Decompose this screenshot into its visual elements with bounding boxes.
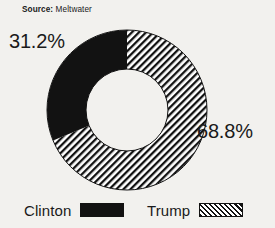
legend-label-trump: Trump — [147, 202, 190, 219]
diagonal-hatch-swatch-icon — [199, 203, 243, 217]
clinton-value-label: 31.2% — [9, 30, 65, 53]
trump-value-label: 68.8% — [197, 120, 253, 143]
legend-item-trump: Trump — [147, 199, 243, 221]
donut-chart-figure: Source: Meltwater — [0, 0, 275, 228]
legend-item-clinton: Clinton — [24, 199, 124, 221]
chart-legend: Clinton Trump — [0, 199, 275, 225]
legend-label-clinton: Clinton — [24, 202, 71, 219]
solid-black-swatch-icon — [80, 203, 124, 217]
